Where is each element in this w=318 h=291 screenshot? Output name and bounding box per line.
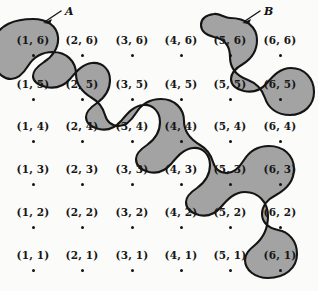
region-b-blob [201, 14, 314, 115]
region-b-leader-arrow [242, 11, 260, 24]
grid-regions-figure: A B (1, 6)(2, 6)(3, 6)(4, 6)(5, 6)(6, 6)… [0, 0, 318, 291]
region-label-b: B [264, 6, 273, 17]
region-a-blob [0, 19, 297, 278]
region-label-a: A [65, 6, 74, 17]
regions-svg [0, 0, 318, 291]
region-a-leader-arrow [43, 11, 61, 24]
